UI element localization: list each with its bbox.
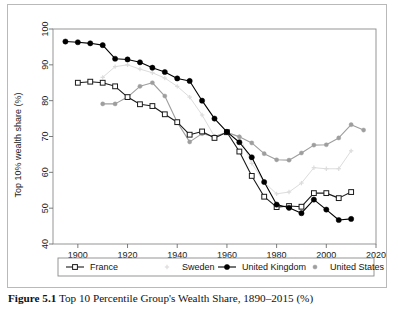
x-tick-label: 1900 xyxy=(68,250,88,260)
data-point-marker xyxy=(88,41,93,46)
series-line xyxy=(103,83,364,160)
data-point-marker xyxy=(200,129,205,134)
data-point-marker xyxy=(100,43,105,48)
data-point-marker xyxy=(349,123,353,127)
y-tick-label: 90 xyxy=(40,60,50,70)
x-tick-label: 1940 xyxy=(167,250,187,260)
legend-label: France xyxy=(90,262,118,272)
data-point-marker xyxy=(311,197,316,202)
y-tick-label: 100 xyxy=(40,21,50,36)
data-point-marker xyxy=(125,57,130,62)
data-point-marker xyxy=(100,80,105,85)
data-point-marker xyxy=(113,84,118,89)
data-point-marker xyxy=(224,264,229,269)
data-point-marker xyxy=(275,158,279,162)
figure-caption: Figure 5.1 Top 10 Percentile Group's Wea… xyxy=(8,292,392,305)
data-point-marker xyxy=(175,120,180,125)
data-point-marker xyxy=(88,79,93,84)
data-point-marker xyxy=(286,205,291,210)
data-point-marker xyxy=(237,149,242,154)
data-point-marker xyxy=(324,207,329,212)
data-point-marker xyxy=(137,60,142,65)
data-point-marker xyxy=(262,179,267,184)
chart-legend: FranceSwedenUnited KingdomUnited States xyxy=(58,258,385,276)
data-point-marker xyxy=(313,265,317,269)
legend-item-sweden[interactable]: Sweden xyxy=(165,262,215,272)
data-point-marker xyxy=(299,204,304,209)
data-point-marker xyxy=(187,78,192,83)
data-point-marker xyxy=(237,135,241,139)
data-series-layer xyxy=(63,39,366,223)
y-tick-label: 50 xyxy=(40,203,50,213)
caption-text: Top 10 Percentile Group's Wealth Share, … xyxy=(56,292,313,304)
data-point-marker xyxy=(249,174,254,179)
data-point-marker xyxy=(75,40,80,45)
y-axis-ticks: 405060708090100 xyxy=(40,21,53,249)
series-line xyxy=(65,42,351,220)
x-tick-label: 1960 xyxy=(217,250,237,260)
y-tick-label: 80 xyxy=(40,96,50,106)
data-point-marker xyxy=(287,158,291,162)
y-tick-label: 70 xyxy=(40,131,50,141)
data-point-marker xyxy=(299,211,304,216)
legend-item-france[interactable]: France xyxy=(66,262,118,272)
data-point-marker xyxy=(237,140,242,145)
data-point-marker xyxy=(187,132,192,137)
data-point-marker xyxy=(125,95,130,100)
caption-label: Figure 5.1 xyxy=(8,292,56,304)
data-point-marker xyxy=(163,94,167,98)
data-point-marker xyxy=(212,116,217,121)
data-point-marker xyxy=(113,56,118,61)
data-point-marker xyxy=(250,141,254,145)
data-point-marker xyxy=(311,191,316,196)
y-tick-label: 40 xyxy=(40,239,50,249)
x-tick-label: 2020 xyxy=(366,250,386,260)
series-united-kingdom xyxy=(63,39,354,223)
data-point-marker xyxy=(274,202,279,207)
data-point-marker xyxy=(150,65,155,70)
data-point-marker xyxy=(262,152,266,156)
data-point-marker xyxy=(162,112,167,117)
data-point-marker xyxy=(138,84,142,88)
caption-text-value: Top 10 Percentile Group's Wealth Share, … xyxy=(59,292,313,304)
data-point-marker xyxy=(73,265,78,270)
series-line xyxy=(78,82,351,207)
y-axis-title: Top 10% wealth share (%) xyxy=(13,92,23,197)
data-point-marker xyxy=(312,143,316,147)
data-point-marker xyxy=(199,98,204,103)
data-point-marker xyxy=(249,155,254,160)
data-point-marker xyxy=(324,191,329,196)
figure-container: 405060708090100 190019201940196019802000… xyxy=(0,0,398,314)
legend-item-united-kingdom[interactable]: United Kingdom xyxy=(218,262,306,272)
data-point-marker xyxy=(336,196,341,201)
data-point-marker xyxy=(349,190,354,195)
legend-label: United States xyxy=(330,262,385,272)
data-point-marker xyxy=(337,136,341,140)
x-tick-label: 1980 xyxy=(267,250,287,260)
data-point-marker xyxy=(150,81,154,85)
series-united-states xyxy=(101,81,366,163)
data-point-marker xyxy=(361,128,365,132)
data-point-marker xyxy=(324,143,328,147)
legend-item-united-states[interactable]: United States xyxy=(313,262,385,272)
chart-panel: 405060708090100 190019201940196019802000… xyxy=(7,4,387,288)
data-point-marker xyxy=(75,80,80,85)
data-point-marker xyxy=(150,104,155,109)
data-point-marker xyxy=(349,216,354,221)
wealth-share-line-chart: 405060708090100 190019201940196019802000… xyxy=(8,5,386,287)
data-point-marker xyxy=(138,102,143,107)
data-point-marker xyxy=(188,140,192,144)
data-point-marker xyxy=(113,102,117,106)
data-point-marker xyxy=(175,76,180,81)
data-point-marker xyxy=(224,129,229,134)
data-point-marker xyxy=(101,102,105,106)
data-point-marker xyxy=(262,194,267,199)
legend-label: United Kingdom xyxy=(242,262,306,272)
y-tick-label: 60 xyxy=(40,167,50,177)
x-tick-label: 2000 xyxy=(316,250,336,260)
data-point-marker xyxy=(63,39,68,44)
data-point-marker xyxy=(299,151,303,155)
data-point-marker xyxy=(212,136,217,141)
data-point-marker xyxy=(336,217,341,222)
x-tick-label: 1920 xyxy=(118,250,138,260)
